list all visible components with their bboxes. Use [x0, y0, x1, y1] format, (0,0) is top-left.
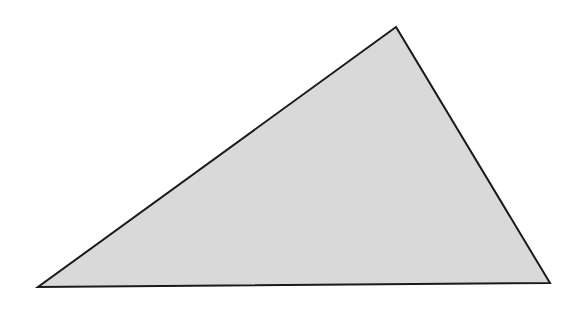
- triangle-diagram: [0, 0, 570, 318]
- triangle-shape: [38, 27, 550, 287]
- diagram-canvas: [0, 0, 570, 318]
